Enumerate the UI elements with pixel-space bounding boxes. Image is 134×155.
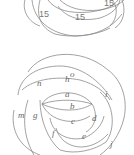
region-boundary: [42, 100, 92, 104]
number-label: 15: [75, 12, 85, 22]
region-boundary: [100, 92, 112, 142]
region-boundary: [100, 70, 125, 155]
region-label-e: e: [82, 131, 86, 141]
bottom-figure: o n h i a b m g c d f e j: [13, 54, 125, 155]
region-label-a: a: [65, 89, 70, 99]
region-label-d: d: [92, 113, 97, 123]
region-label-b: b: [70, 101, 75, 111]
region-label-m: m: [18, 110, 25, 120]
region-label-j: j: [109, 139, 113, 149]
region-label-g: g: [33, 110, 38, 120]
region-label-h: h: [65, 74, 70, 84]
region-label-n: n: [37, 78, 42, 88]
top-figure: 15 15 15: [24, 0, 124, 36]
number-label: 15: [39, 9, 49, 19]
region-label-o: o: [70, 69, 75, 79]
region-boundary: [42, 104, 92, 110]
number-label: 15: [104, 0, 114, 8]
region-label-c: c: [71, 116, 75, 126]
top-arc: [24, 0, 40, 26]
region-label-i: i: [105, 89, 108, 99]
knot-diagram: 15 15 15 o n h i a b m g c d f e j: [0, 0, 134, 155]
top-arc: [60, 0, 124, 11]
